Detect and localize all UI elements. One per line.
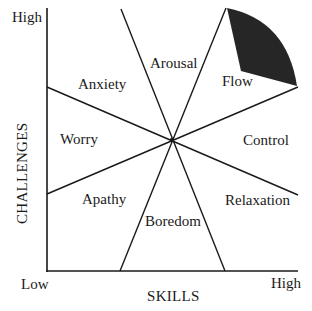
region-label-apathy: Apathy [82, 192, 126, 207]
x-axis-low-label: Low [21, 277, 49, 292]
region-label-control: Control [243, 133, 289, 148]
region-label-flow: Flow [222, 74, 253, 89]
x-axis-title: SKILLS [147, 289, 200, 304]
x-axis-high-label: High [271, 276, 301, 291]
flow-diagram-canvas [0, 0, 312, 311]
center-point [170, 138, 174, 142]
region-label-boredom: Boredom [145, 214, 201, 229]
region-label-arousal: Arousal [150, 56, 198, 71]
region-label-anxiety: Anxiety [78, 77, 126, 92]
y-axis-high-label: High [12, 10, 42, 25]
y-axis-title: CHALLENGES [15, 123, 30, 224]
region-label-worry: Worry [60, 132, 98, 147]
region-label-relaxation: Relaxation [225, 193, 290, 208]
